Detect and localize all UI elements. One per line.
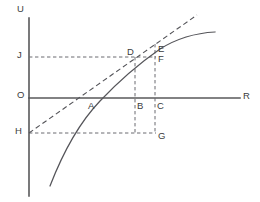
- figure-canvas: [0, 0, 260, 202]
- x-axis-label: R: [243, 91, 250, 101]
- label-b: B: [137, 101, 144, 111]
- label-h: H: [15, 126, 22, 136]
- label-f: F: [158, 54, 164, 64]
- label-g: G: [158, 131, 166, 141]
- label-c: C: [157, 101, 164, 111]
- label-j: J: [17, 50, 22, 60]
- y-axis-label: U: [17, 4, 24, 14]
- label-origin-o: O: [17, 90, 25, 100]
- label-a: A: [88, 101, 95, 111]
- utility-curve-figure: U J O H A B C D E F G R: [0, 0, 260, 202]
- label-d: D: [127, 47, 134, 57]
- tangent-line: [29, 15, 197, 133]
